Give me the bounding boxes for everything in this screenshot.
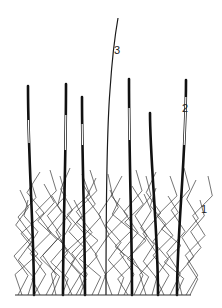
label-3: 3 (114, 44, 120, 56)
plant-drawing: 3 2 1 (0, 0, 222, 308)
tall-stalk (106, 18, 118, 295)
segmented-shoot (82, 97, 85, 295)
thin-stem (150, 188, 168, 295)
thin-stem (125, 186, 149, 295)
segmented-shoot (63, 84, 66, 295)
thin-stem (106, 190, 124, 295)
thin-stem (38, 184, 60, 295)
segmented-shoot (129, 79, 132, 295)
label-2: 2 (182, 102, 188, 114)
label-1: 1 (201, 203, 207, 215)
thin-stem (105, 176, 128, 295)
thin-stem (131, 176, 151, 295)
segmented-shoot (28, 86, 34, 295)
thin-stem (95, 174, 112, 295)
